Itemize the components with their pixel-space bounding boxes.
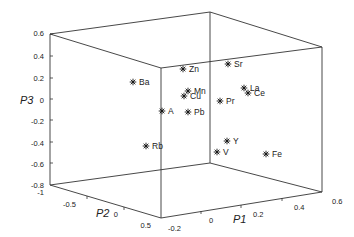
x-tick-label: 0.6 bbox=[332, 197, 342, 206]
point-label: Y bbox=[233, 136, 239, 146]
data-point: V bbox=[214, 147, 229, 157]
y-tick-label: -1 bbox=[37, 188, 44, 197]
point-label: Fe bbox=[272, 149, 282, 159]
z-tick-label: 0.2 bbox=[34, 74, 44, 83]
z-axis-label: P3 bbox=[20, 94, 34, 106]
point-label: Pb bbox=[194, 107, 205, 117]
x-tick-label: 0 bbox=[209, 216, 213, 225]
data-point: Y bbox=[224, 136, 239, 146]
y-tick-label: 0.5 bbox=[141, 221, 151, 230]
x-tick-label: 0.4 bbox=[294, 203, 304, 212]
data-point: Sr bbox=[225, 59, 243, 69]
data-points: BaZnSrMnCuLaCePrAPbRbYVFe bbox=[130, 59, 282, 159]
data-point: Pr bbox=[217, 96, 235, 106]
point-label: Zn bbox=[189, 64, 199, 74]
point-label: Sr bbox=[234, 59, 243, 69]
data-point: Ce bbox=[245, 88, 265, 98]
point-label: A bbox=[168, 106, 174, 116]
point-label: Rb bbox=[152, 141, 163, 151]
z-tick-label: -0.2 bbox=[31, 117, 44, 126]
point-label: Ba bbox=[139, 77, 150, 87]
axes-box bbox=[50, 12, 322, 218]
point-label: Ce bbox=[254, 88, 265, 98]
y-axis-label: P2 bbox=[96, 207, 109, 219]
chart-canvas: 0.60.40.20-0.2-0.4-0.6-0.8-1-0.500.5-0.2… bbox=[0, 0, 354, 237]
y-tick-label: -0.5 bbox=[63, 200, 76, 209]
z-tick-label: -0.4 bbox=[31, 139, 44, 148]
z-tick-label: 0.4 bbox=[34, 52, 44, 61]
x-axis-label: P1 bbox=[233, 213, 246, 225]
x-tick-label: 0.2 bbox=[253, 210, 263, 219]
data-point: Rb bbox=[143, 141, 163, 151]
data-point: Pb bbox=[185, 107, 205, 117]
tick-labels: 0.60.40.20-0.2-0.4-0.6-0.8-1-0.500.5-0.2… bbox=[31, 29, 342, 233]
data-point: Fe bbox=[263, 149, 282, 159]
point-label: Pr bbox=[226, 96, 235, 106]
x-tick-label: -0.2 bbox=[168, 224, 181, 233]
data-point: Cu bbox=[181, 91, 201, 101]
z-tick-label: 0.6 bbox=[34, 29, 44, 38]
data-point: Ba bbox=[130, 77, 150, 87]
box-edge bbox=[50, 163, 210, 185]
z-tick-label: -0.6 bbox=[31, 160, 44, 169]
z-tick-label: 0 bbox=[40, 96, 44, 105]
point-label: V bbox=[223, 147, 229, 157]
box-top bbox=[50, 12, 322, 68]
box-edge bbox=[210, 163, 322, 192]
y-tick-label: 0 bbox=[114, 210, 118, 219]
point-label: Cu bbox=[190, 91, 201, 101]
scatter-3d-chart: 0.60.40.20-0.2-0.4-0.6-0.8-1-0.500.5-0.2… bbox=[0, 0, 354, 237]
